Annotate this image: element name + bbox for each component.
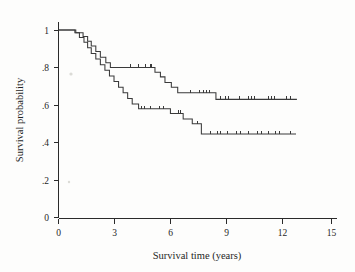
y-tick-label-0p2: .2: [42, 176, 49, 186]
y-tick-label-0p6: .6: [42, 101, 49, 111]
survival-curve-upper: [59, 30, 297, 99]
paper-speckle: [68, 181, 70, 183]
censor-marks-lower: [142, 106, 291, 135]
survival-plot-figure: 0 .2 .4 .6 .8 1 0 3 6 9 12 15 Survival t…: [0, 0, 355, 272]
x-tick-label-15: 15: [327, 228, 337, 238]
y-tick-label-1: 1: [44, 26, 49, 36]
y-axis-title: Survival probability: [14, 77, 25, 162]
chart-canvas: 0 .2 .4 .6 .8 1 0 3 6 9 12 15 Survival t…: [0, 0, 355, 272]
x-tick-label-9: 9: [224, 228, 229, 238]
y-tick-label-0p4: .4: [42, 138, 49, 148]
y-tick-label-0p8: .8: [42, 63, 49, 73]
x-tick-label-0: 0: [56, 228, 61, 238]
paper-speckle: [69, 72, 72, 75]
survival-curves-group: [59, 30, 297, 134]
y-axis-ticks: [54, 30, 59, 218]
x-axis-title: Survival time (years): [153, 250, 242, 262]
x-tick-label-6: 6: [168, 228, 173, 238]
y-tick-label-0: 0: [44, 213, 49, 223]
x-tick-label-3: 3: [112, 228, 117, 238]
x-tick-label-12: 12: [278, 228, 288, 238]
x-axis-ticks: [59, 219, 332, 224]
